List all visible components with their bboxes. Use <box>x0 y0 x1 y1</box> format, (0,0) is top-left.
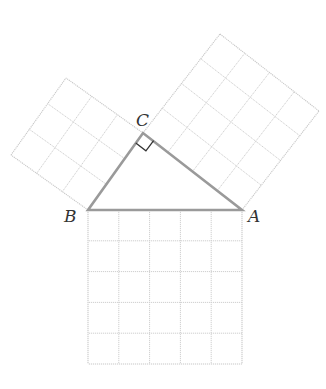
square-ca <box>143 34 319 210</box>
square-ab <box>88 210 242 364</box>
right-angle-marker <box>136 141 154 151</box>
vertex-label-c: C <box>136 110 149 130</box>
right-triangle <box>88 133 242 210</box>
pythagorean-diagram: C B A <box>0 0 326 389</box>
vertex-label-b: B <box>63 206 77 226</box>
square-bc <box>11 78 143 210</box>
squares <box>11 34 319 364</box>
vertex-label-a: A <box>246 206 260 226</box>
